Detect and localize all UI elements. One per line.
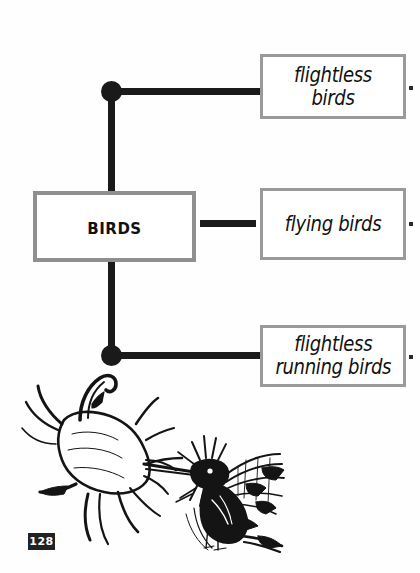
connector-horizontal-flightless [112,88,260,95]
node-label-flying-birds: flying birds [285,213,381,236]
connector-vertical-upper [108,91,115,191]
textbook-page: Birds flightless birds flying birds flig… [0,0,420,573]
connector-horizontal-flying [200,220,256,227]
node-box-birds[interactable]: Birds [33,191,196,262]
page-number-text: 128 [29,535,53,548]
junction-dot-upper [101,81,122,102]
connector-horizontal-running [112,352,260,359]
junction-dot-lower [101,345,122,366]
connector-vertical-lower [108,262,115,356]
edge-dot-bottom [409,355,413,359]
edge-dot-middle [409,222,413,226]
node-box-flying-birds[interactable]: flying birds [260,188,406,260]
hummingbird-at-flower-illustration [18,368,288,553]
node-label-flightless-running-birds: flightless running birds [275,333,391,378]
edge-dot-top [409,86,413,90]
node-label-birds: Birds [87,214,141,239]
node-label-flightless-birds: flightless birds [273,64,393,109]
node-box-flightless-birds[interactable]: flightless birds [260,54,406,119]
page-number-badge: 128 [28,533,55,550]
